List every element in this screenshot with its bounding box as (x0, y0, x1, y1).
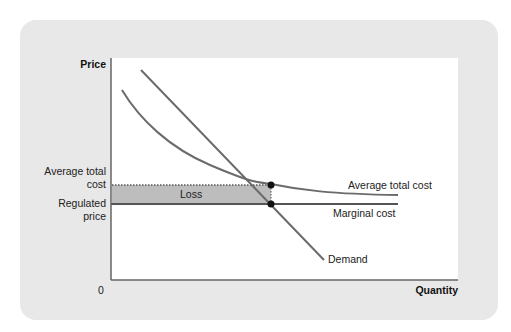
mc-curve-label: Marginal cost (333, 207, 395, 220)
atc-tick-label-line1: Average total (20, 165, 106, 178)
atc-tick-label-line2: cost (20, 178, 106, 191)
x-axis-label: Quantity (380, 284, 458, 297)
y-axis-label: Price (60, 58, 106, 71)
atc-curve-label: Average total cost (348, 179, 432, 192)
loss-label: Loss (180, 188, 202, 201)
plot-area (111, 58, 458, 280)
mc-demand-point-dot (268, 201, 275, 208)
regulated-price-label-line1: Regulated (20, 197, 106, 210)
regulated-price-label-line2: price (20, 210, 106, 223)
origin-label: 0 (98, 284, 104, 297)
demand-curve-label: Demand (328, 253, 368, 266)
atc-point-dot (268, 182, 275, 189)
